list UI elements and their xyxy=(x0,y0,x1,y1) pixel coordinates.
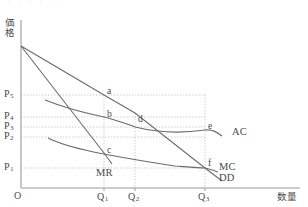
y-axis-label-char-2: 格 xyxy=(5,28,15,38)
x-axis-label: 数量 xyxy=(277,192,297,202)
x-tick-q3: Q3 xyxy=(198,192,209,202)
curve-label-ac: AC xyxy=(232,127,247,138)
y-tick-p2: P2 xyxy=(4,131,14,141)
y-tick-p5: P5 xyxy=(4,89,14,99)
y-tick-p2-base: P xyxy=(4,130,10,141)
x-tick-q1: Q1 xyxy=(97,192,108,202)
point-label-b: b xyxy=(107,110,112,120)
plot-canvas xyxy=(0,0,308,207)
origin-label: O xyxy=(14,191,21,201)
guide-lines xyxy=(21,95,205,188)
point-label-e: e xyxy=(208,122,212,132)
y-tick-p2-sub: 2 xyxy=(10,134,14,142)
x-tick-q1-sub: 1 xyxy=(104,195,108,203)
mr-curve xyxy=(21,46,112,164)
point-label-d: d xyxy=(138,115,143,125)
y-axis-label: 価 格 xyxy=(5,18,15,37)
dd-curve xyxy=(21,46,222,181)
ac-curve xyxy=(45,100,222,136)
axes xyxy=(21,20,300,188)
curve-label-dd: DD xyxy=(219,173,235,184)
x-tick-q2: Q2 xyxy=(128,192,139,202)
y-tick-p1: P1 xyxy=(4,162,14,172)
point-label-a: a xyxy=(107,87,111,97)
point-label-f: f xyxy=(208,159,211,169)
economics-diagram-figure: . . . . . . xyxy=(0,0,308,207)
y-tick-p5-base: P xyxy=(4,88,10,99)
mc-curve xyxy=(48,138,218,172)
point-label-c: c xyxy=(107,146,111,156)
y-tick-p5-sub: 5 xyxy=(10,92,14,100)
curve-label-mr: MR xyxy=(96,168,113,179)
x-tick-q2-sub: 2 xyxy=(135,195,139,203)
curve-label-mc: MC xyxy=(219,162,236,173)
y-tick-p1-base: P xyxy=(4,161,10,172)
y-tick-p1-sub: 1 xyxy=(10,165,14,173)
x-tick-q3-sub: 3 xyxy=(205,195,209,203)
